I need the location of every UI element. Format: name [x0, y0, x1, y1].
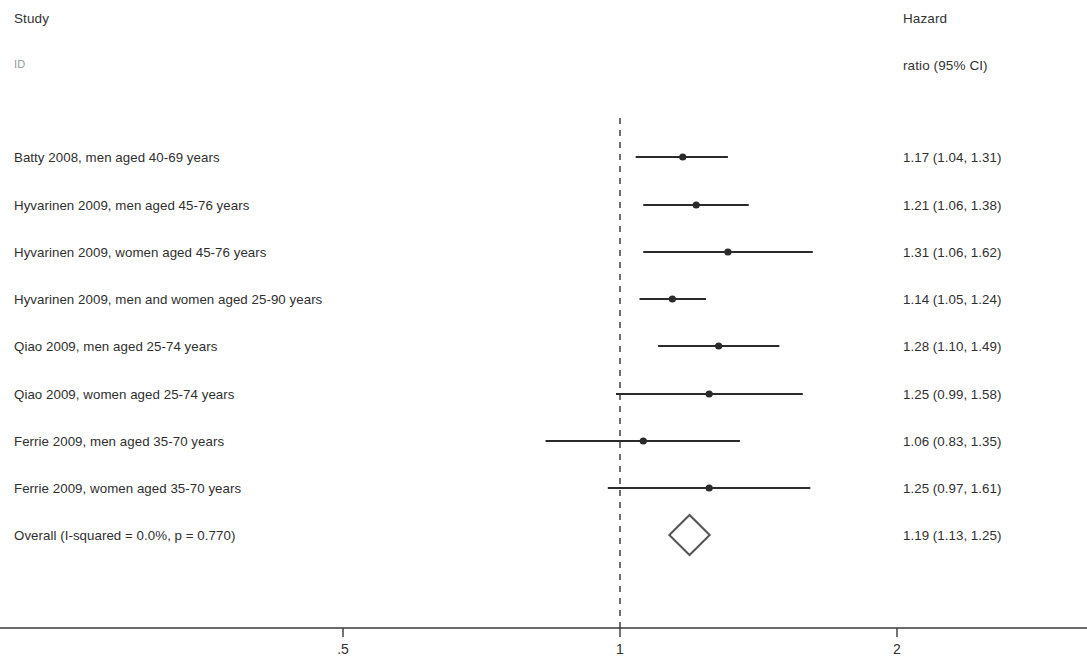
study-label: Qiao 2009, men aged 25-74 years — [14, 339, 217, 354]
forest-row-4 — [658, 342, 779, 349]
effect-value: 1.17 (1.04, 1.31) — [903, 150, 1001, 165]
forest-row-5 — [616, 390, 803, 397]
x-axis-tick-label: .5 — [337, 641, 349, 657]
point-estimate-marker — [715, 342, 722, 349]
x-axis-tick-label: 2 — [893, 641, 901, 657]
study-label: Hyvarinen 2009, men and women aged 25-90… — [14, 292, 322, 307]
point-estimate-marker — [724, 248, 731, 255]
point-estimate-marker — [640, 437, 647, 444]
effect-value: 1.31 (1.06, 1.62) — [903, 245, 1001, 260]
forest-row-7 — [608, 484, 810, 491]
point-estimate-marker — [706, 390, 713, 397]
point-estimate-marker — [679, 153, 686, 160]
point-estimate-marker — [669, 295, 676, 302]
overall-label: Overall (I-squared = 0.0%, p = 0.770) — [14, 528, 235, 543]
effect-value: 1.06 (0.83, 1.35) — [903, 434, 1001, 449]
effect-value: 1.14 (1.05, 1.24) — [903, 292, 1001, 307]
study-label: Batty 2008, men aged 40-69 years — [14, 150, 220, 165]
forest-row-6 — [546, 437, 740, 444]
point-estimate-marker — [693, 201, 700, 208]
x-axis-tick-label: 1 — [616, 641, 624, 657]
study-label: Ferrie 2009, men aged 35-70 years — [14, 434, 224, 449]
study-label: Hyvarinen 2009, women aged 45-76 years — [14, 245, 266, 260]
effect-value: 1.21 (1.06, 1.38) — [903, 198, 1001, 213]
study-label: Qiao 2009, women aged 25-74 years — [14, 387, 234, 402]
study-label: Ferrie 2009, women aged 35-70 years — [14, 481, 241, 496]
forest-row-3 — [639, 295, 705, 302]
study-label: Hyvarinen 2009, men aged 45-76 years — [14, 198, 249, 213]
forest-row-0 — [636, 153, 728, 160]
forest-row-1 — [643, 201, 748, 208]
forest-plot — [0, 0, 1087, 662]
effect-value: 1.28 (1.10, 1.49) — [903, 339, 1001, 354]
effect-value: 1.25 (0.99, 1.58) — [903, 387, 1001, 402]
point-estimate-marker — [706, 484, 713, 491]
overall-effect-value: 1.19 (1.13, 1.25) — [903, 528, 1001, 543]
effect-value: 1.25 (0.97, 1.61) — [903, 481, 1001, 496]
forest-row-2 — [643, 248, 813, 255]
summary-diamond — [669, 515, 709, 555]
